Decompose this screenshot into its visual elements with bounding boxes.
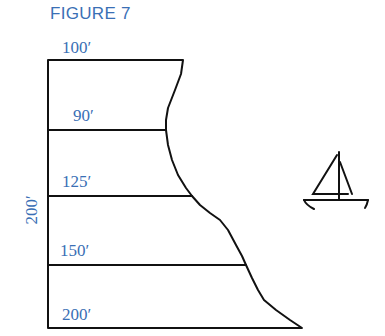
sailboat-icon [304, 152, 368, 209]
cliff-outline [48, 60, 302, 328]
cliff-diagram [0, 0, 385, 336]
